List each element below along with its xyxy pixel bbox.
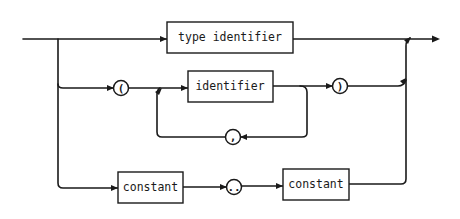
arrow-to-constant-high [276, 183, 283, 189]
identifier-box: identifier [188, 71, 273, 102]
type-identifier-box: type identifier [167, 22, 293, 53]
constant-low-box: constant [118, 172, 183, 203]
constant-high-box: constant [283, 169, 349, 200]
constant-high-label: constant [288, 177, 343, 191]
identifier-label: identifier [195, 79, 264, 93]
constant-low-label: constant [123, 180, 178, 194]
left-branch-line [58, 39, 118, 188]
type-identifier-label: type identifier [178, 30, 282, 44]
paren-branch-line [58, 84, 114, 88]
comma-label: , [230, 131, 237, 144]
comma-terminal: , [226, 130, 241, 145]
open-paren-terminal: ( [114, 81, 129, 96]
arrow-to-type-identifier [160, 36, 167, 42]
syntax-diagram: type identifier ( identifier ) , constan… [0, 0, 460, 219]
exit-arrow [432, 36, 440, 43]
close-paren-terminal: ) [333, 79, 348, 94]
arrow-merge-top [404, 37, 411, 44]
range-dots-terminal: .. [227, 180, 242, 195]
range-dots-label: .. [227, 181, 240, 194]
bottom-merge-line [349, 38, 410, 184]
arrow-to-identifier [181, 85, 188, 91]
close-paren-to-merge-line [347, 80, 406, 86]
open-paren-label: ( [118, 82, 125, 95]
arrow-to-constant-low [111, 185, 118, 191]
close-paren-label: ) [337, 80, 344, 93]
